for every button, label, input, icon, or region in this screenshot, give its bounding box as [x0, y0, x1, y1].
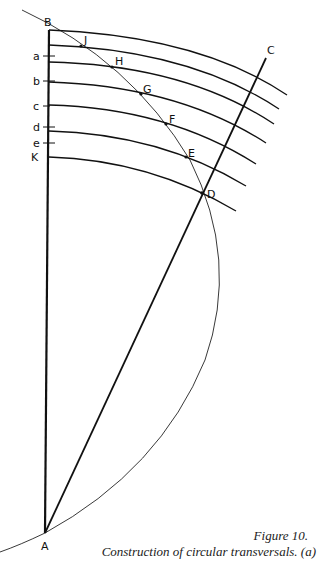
label-K: K — [31, 151, 39, 164]
label-F: F — [169, 113, 175, 126]
label-a: a — [33, 50, 40, 63]
label-B: B — [44, 16, 52, 29]
figure-title: Figure 10. — [254, 528, 308, 544]
circular-transversals-diagram: B J H G F E D C A K a b c d e — [0, 0, 325, 587]
arc-G — [49, 82, 266, 143]
label-A: A — [41, 540, 49, 553]
label-e: e — [33, 137, 40, 150]
arc-F — [49, 105, 256, 164]
label-d: d — [33, 121, 40, 134]
point-H-dot — [110, 65, 113, 68]
point-F-dot — [164, 122, 167, 125]
label-E: E — [188, 147, 195, 160]
label-H: H — [115, 55, 123, 68]
point-J-dot — [79, 44, 82, 47]
large-circle-arc — [0, 10, 219, 552]
line-AB — [45, 30, 49, 533]
label-c: c — [33, 100, 39, 113]
label-G: G — [143, 83, 152, 96]
figure-caption: Construction of circular transversals. (… — [102, 544, 316, 560]
label-b: b — [33, 75, 40, 88]
label-J: J — [83, 34, 87, 47]
label-C: C — [267, 44, 275, 57]
label-D: D — [207, 188, 215, 201]
line-AC — [45, 58, 266, 533]
point-D-dot — [200, 191, 204, 195]
